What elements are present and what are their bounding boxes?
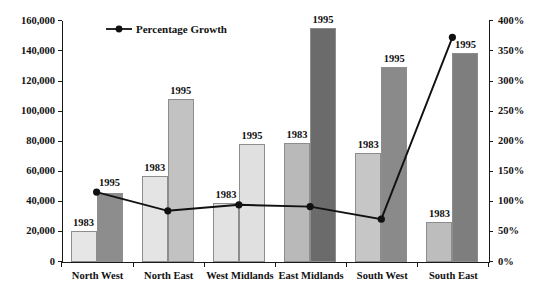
left-axis-tick-label: 80,000 xyxy=(26,136,55,147)
bar-1995 xyxy=(239,144,265,262)
category-label: North East xyxy=(133,271,204,282)
bar-1995 xyxy=(381,67,407,262)
bar-1995 xyxy=(168,99,194,262)
category-label: East Midlands xyxy=(276,271,347,282)
right-axis-tick xyxy=(489,141,493,142)
left-axis-tick-label: 0 xyxy=(50,257,55,268)
bars-layer xyxy=(62,21,489,262)
right-axis-tick xyxy=(489,201,493,202)
left-axis-tick-label: 20,000 xyxy=(26,226,55,237)
right-axis-tick xyxy=(489,50,493,51)
bar-1995 xyxy=(310,28,336,262)
right-axis-tick-label: 50% xyxy=(498,226,519,237)
bar-label-1983: 1983 xyxy=(68,218,100,229)
right-axis-tick xyxy=(489,231,493,232)
left-axis-tick-label: 40,000 xyxy=(26,196,55,207)
bar-1983 xyxy=(213,203,239,262)
bar-label-1995: 1995 xyxy=(449,40,481,51)
bar-label-1983: 1983 xyxy=(281,130,313,141)
category-label: North West xyxy=(62,271,133,282)
left-axis-tick-label: 60,000 xyxy=(26,166,55,177)
right-axis-tick xyxy=(489,171,493,172)
bar-label-1995: 1995 xyxy=(94,178,126,189)
category-axis xyxy=(62,262,490,263)
bar-1983 xyxy=(71,231,97,262)
right-axis-tick-label: 400% xyxy=(498,16,524,27)
left-axis-tick-label: 160,000 xyxy=(21,16,55,27)
bar-label-1995: 1995 xyxy=(307,15,339,26)
category-axis-tick xyxy=(488,262,489,267)
right-axis-tick-label: 0% xyxy=(498,257,514,268)
category-label: West Midlands xyxy=(204,271,275,282)
right-axis-tick-label: 250% xyxy=(498,106,524,117)
category-axis-tick xyxy=(204,262,205,267)
bar-1995 xyxy=(97,193,123,262)
left-axis-tick-label: 100,000 xyxy=(21,106,55,117)
category-axis-tick xyxy=(346,262,347,267)
bar-label-1995: 1995 xyxy=(378,54,410,65)
right-axis-tick-label: 300% xyxy=(498,76,524,87)
right-axis-tick xyxy=(489,261,493,262)
bar-1983 xyxy=(426,222,452,262)
right-axis-tick-label: 150% xyxy=(498,166,524,177)
category-label: South West xyxy=(347,271,418,282)
category-axis-tick xyxy=(133,262,134,267)
category-axis-tick xyxy=(275,262,276,267)
left-axis-tick-label: 140,000 xyxy=(21,46,55,57)
bar-label-1983: 1983 xyxy=(423,209,455,220)
bar-label-1983: 1983 xyxy=(139,163,171,174)
bar-label-1995: 1995 xyxy=(165,86,197,97)
right-axis-tick xyxy=(489,81,493,82)
right-axis-tick xyxy=(489,20,493,21)
left-axis-tick-label: 120,000 xyxy=(21,76,55,87)
bar-label-1983: 1983 xyxy=(352,140,384,151)
category-axis-tick xyxy=(417,262,418,267)
legend-label-percentage-growth: Percentage Growth xyxy=(136,23,227,35)
bar-1983 xyxy=(142,176,168,262)
bar-1983 xyxy=(355,153,381,262)
bar-label-1995: 1995 xyxy=(236,131,268,142)
bar-label-1983: 1983 xyxy=(210,190,242,201)
bar-1983 xyxy=(284,143,310,262)
right-axis-tick xyxy=(489,111,493,112)
bar-1995 xyxy=(452,53,478,262)
right-axis-tick-label: 100% xyxy=(498,196,524,207)
right-axis-tick-label: 200% xyxy=(498,136,524,147)
legend-line-marker-icon xyxy=(106,23,132,35)
right-axis-tick-label: 350% xyxy=(498,46,524,57)
category-axis-tick xyxy=(61,262,62,267)
legend: Percentage Growth xyxy=(106,23,227,35)
category-label: South East xyxy=(418,271,489,282)
percentage-growth-chart: 020,00040,00060,00080,000100,000120,0001… xyxy=(0,0,551,299)
